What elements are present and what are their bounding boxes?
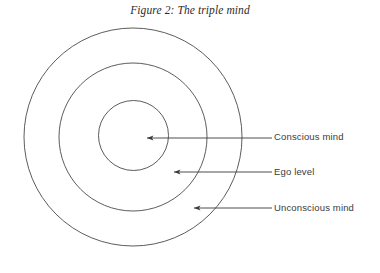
label-unconscious-mind: Unconscious mind — [274, 203, 354, 213]
outer-circle — [24, 28, 242, 246]
label-ego-level: Ego level — [274, 167, 314, 177]
figure-container: Figure 2: The triple mind Conscious mind… — [0, 0, 380, 273]
label-conscious-mind: Conscious mind — [274, 132, 344, 142]
inner-circle — [99, 101, 169, 171]
middle-circle — [59, 63, 207, 211]
